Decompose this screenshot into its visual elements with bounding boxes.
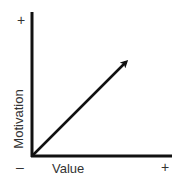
y-axis-plus-sign: + <box>17 13 25 27</box>
y-axis-label: Motivation <box>12 89 25 148</box>
motivation-value-diagram: + Motivation – Value + <box>0 0 180 187</box>
x-axis-plus-sign: + <box>161 160 169 174</box>
axes-canvas <box>0 0 180 187</box>
origin-minus-sign: – <box>16 160 24 174</box>
diagonal-arrow <box>33 62 126 155</box>
x-axis-label: Value <box>52 162 84 175</box>
